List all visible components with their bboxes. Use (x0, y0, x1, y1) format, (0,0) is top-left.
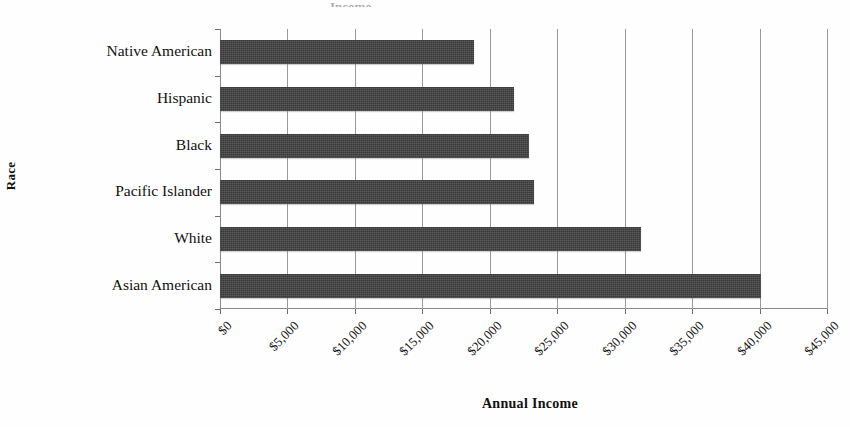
y-axis-line (220, 29, 221, 309)
x-tick-label: $25,000 (517, 318, 572, 373)
x-tick-mark (625, 309, 626, 314)
y-tick-mark (215, 29, 220, 30)
x-tick-label: $0 (180, 318, 235, 373)
x-axis-title: Annual Income (420, 396, 640, 412)
y-tick-mark (215, 169, 220, 170)
x-tick-label: $40,000 (720, 318, 775, 373)
x-tick-mark (220, 309, 221, 314)
x-tick-label: $5,000 (248, 318, 303, 373)
x-tick-mark (760, 309, 761, 314)
x-tick-label: $30,000 (585, 318, 640, 373)
gridline (760, 29, 761, 309)
bar (220, 180, 534, 204)
x-tick-label: $20,000 (450, 318, 505, 373)
gridline (557, 29, 558, 309)
x-tick-label: $10,000 (315, 318, 370, 373)
gridline (287, 29, 288, 309)
plot-area (220, 29, 827, 309)
x-axis-line (220, 308, 827, 309)
gridline (355, 29, 356, 309)
y-tick-label: Native American (0, 43, 212, 59)
bar (220, 227, 641, 251)
x-tick-mark (287, 309, 288, 314)
x-tick-mark (557, 309, 558, 314)
gridline (490, 29, 491, 309)
y-tick-label: Hispanic (0, 90, 212, 106)
y-tick-mark (215, 262, 220, 263)
y-tick-label: White (0, 230, 212, 246)
x-tick-label: $45,000 (787, 318, 842, 373)
y-tick-mark (215, 309, 220, 310)
x-tick-mark (355, 309, 356, 314)
gridline (692, 29, 693, 309)
y-tick-label: Asian American (0, 277, 212, 293)
y-tick-mark (215, 76, 220, 77)
y-tick-label: Pacific Islander (0, 183, 212, 199)
gridline (422, 29, 423, 309)
y-tick-label: Black (0, 137, 212, 153)
y-tick-mark (215, 216, 220, 217)
bar (220, 274, 761, 298)
gridline (827, 29, 828, 309)
bar (220, 40, 474, 64)
x-tick-mark (490, 309, 491, 314)
x-tick-mark (827, 309, 828, 314)
chart-screenshot: Income Race Native AmericanHispanicBlack… (0, 0, 850, 427)
x-tick-mark (422, 309, 423, 314)
y-tick-mark (215, 122, 220, 123)
bar (220, 87, 514, 111)
cropped-chart-title: Income (330, 0, 420, 7)
x-tick-mark (692, 309, 693, 314)
gridline (625, 29, 626, 309)
x-tick-label: $15,000 (382, 318, 437, 373)
bar (220, 134, 529, 158)
x-tick-label: $35,000 (652, 318, 707, 373)
